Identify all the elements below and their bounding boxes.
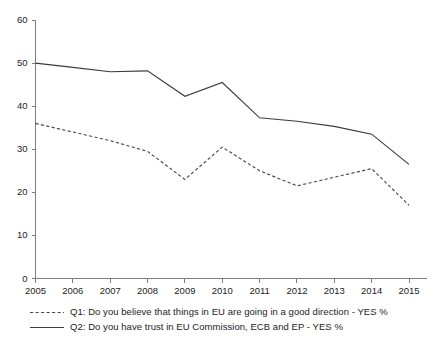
x-tick-label: 2005 xyxy=(25,285,46,296)
series-line-q1 xyxy=(36,123,410,205)
x-tick-label: 2008 xyxy=(137,285,158,296)
legend-label-q2: Q2: Do you have trust in EU Commission, … xyxy=(70,321,343,332)
y-tick-label: 20 xyxy=(17,186,28,197)
x-tick-label: 2013 xyxy=(324,285,345,296)
y-tick-label: 40 xyxy=(17,100,28,111)
x-tick-label: 2015 xyxy=(398,285,419,296)
y-tick-label: 50 xyxy=(17,57,28,68)
x-tick-label: 2007 xyxy=(100,285,121,296)
y-tick-label: 10 xyxy=(17,229,28,240)
legend-label-q1: Q1: Do you believe that things in EU are… xyxy=(70,306,388,317)
y-tick-label: 60 xyxy=(17,14,28,25)
x-axis-ticks: 2005200620072008200920102011201220132014… xyxy=(25,279,420,296)
x-tick-label: 2006 xyxy=(62,285,83,296)
y-tick-label: 30 xyxy=(17,143,28,154)
x-tick-label: 2011 xyxy=(249,285,269,296)
line-chart: 0102030405060 20052006200720082009201020… xyxy=(0,0,435,346)
series-line-q2 xyxy=(36,63,410,164)
legend-swatch-solid-icon xyxy=(30,322,64,332)
x-tick-label: 2014 xyxy=(361,285,382,296)
x-tick-label: 2012 xyxy=(286,285,307,296)
chart-plot-area: 0102030405060 20052006200720082009201020… xyxy=(0,0,435,300)
x-tick-label: 2009 xyxy=(174,285,195,296)
x-tick-label: 2010 xyxy=(212,285,233,296)
legend-item-q1: Q1: Do you believe that things in EU are… xyxy=(30,304,430,319)
legend-swatch-dashed-icon xyxy=(30,307,64,317)
legend-item-q2: Q2: Do you have trust in EU Commission, … xyxy=(30,319,430,334)
chart-legend: Q1: Do you believe that things in EU are… xyxy=(30,304,430,334)
y-tick-label: 0 xyxy=(22,273,27,284)
y-axis-ticks: 0102030405060 xyxy=(17,14,36,284)
